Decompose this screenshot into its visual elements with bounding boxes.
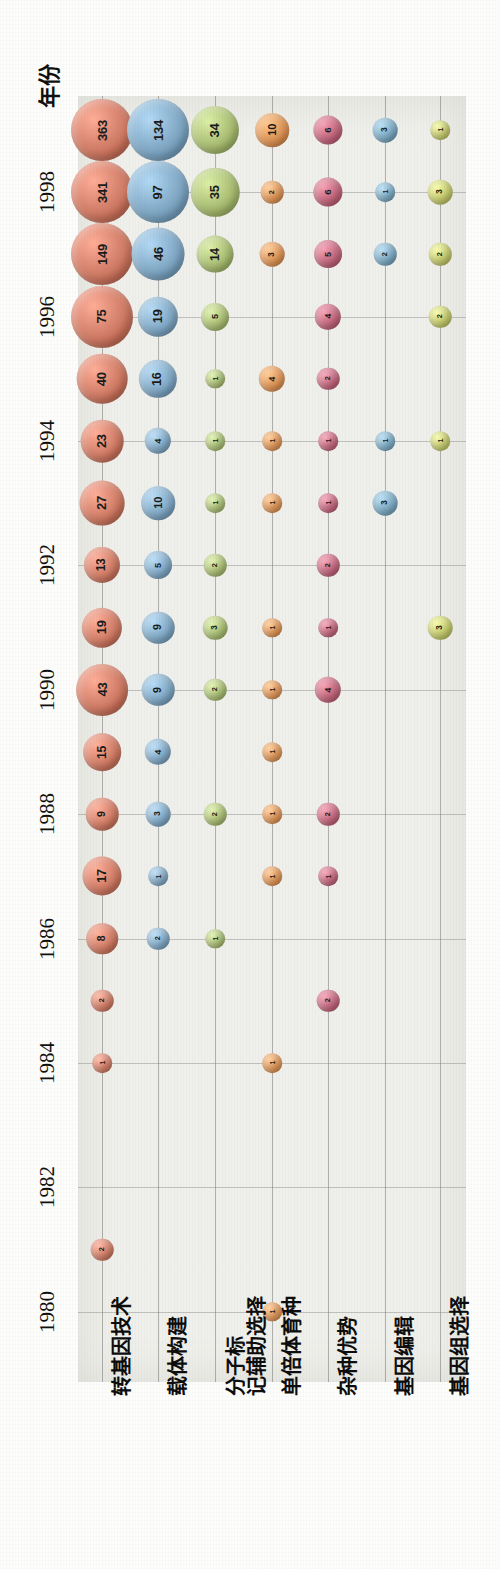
- bubble-载体构建-1989: 4: [145, 739, 171, 765]
- vertical-gridline-7: [440, 96, 441, 1382]
- bubble-value-label: 1: [382, 190, 389, 194]
- bubble-分子标记辅助选择-1988: 2: [204, 803, 227, 826]
- bubble-value-label: 9: [153, 625, 164, 631]
- category-label-基因编辑: 基因编辑: [395, 1316, 416, 1396]
- category-label-杂种优势: 杂种优势: [338, 1316, 359, 1396]
- bubble-基因组选择-1999: 1: [430, 120, 450, 140]
- year-tick-1992: 1992: [35, 544, 60, 586]
- category-label-分子标记辅助选择: 分子标记辅助选择: [226, 1296, 268, 1396]
- bubble-单倍体育种-1990: 1: [262, 680, 282, 700]
- category-label-单倍体育种: 单倍体育种: [282, 1296, 303, 1396]
- bubble-value-label: 4: [154, 750, 163, 755]
- bubble-value-label: 1: [269, 626, 276, 630]
- category-label-line: 转基因技术: [112, 1296, 133, 1396]
- bubble-value-label: 2: [154, 937, 161, 941]
- bubble-载体构建-1998: 97: [127, 161, 189, 223]
- bubble-转基因技术-1981: 2: [91, 1238, 114, 1261]
- bubble-value-label: 5: [153, 563, 162, 568]
- bubble-分子标记辅助选择-1991: 3: [203, 615, 228, 640]
- bubble-分子标记辅助选择-1993: 1: [205, 493, 225, 513]
- vertical-gridline-3: [215, 96, 216, 1382]
- bubble-value-label: 1: [269, 688, 276, 692]
- bubble-value-label: 35: [209, 185, 222, 199]
- bubble-杂种优势-1997: 5: [314, 240, 342, 268]
- bubble-载体构建-1986: 2: [147, 927, 170, 950]
- year-tick-1998: 1998: [35, 171, 60, 213]
- bubble-value-label: 1: [437, 128, 444, 132]
- bubble-单倍体育种-1993: 1: [262, 493, 282, 513]
- bubble-value-label: 1: [212, 377, 219, 381]
- bubble-转基因技术-1984: 1: [92, 1053, 112, 1073]
- bubble-载体构建-1996: 19: [138, 296, 178, 336]
- bubble-分子标记辅助选择-1998: 35: [191, 168, 240, 217]
- bubble-基因组选择-1998: 3: [428, 180, 453, 205]
- bubble-value-label: 1: [325, 501, 332, 505]
- vertical-gridline-4: [272, 96, 273, 1382]
- category-label-line: 载体构建: [168, 1316, 189, 1396]
- bubble-单倍体育种-1988: 1: [262, 804, 282, 824]
- bubble-value-label: 341: [95, 182, 108, 203]
- horizontal-gridline-1992: [78, 565, 466, 566]
- bubble-value-label: 4: [324, 688, 333, 693]
- bubble-value-label: 2: [98, 999, 105, 1003]
- bubble-value-label: 2: [324, 563, 331, 567]
- bubble-value-label: 1: [382, 439, 389, 443]
- bubble-value-label: 97: [152, 185, 165, 199]
- bubble-value-label: 1: [325, 439, 332, 443]
- bubble-基因编辑-1994: 1: [375, 431, 395, 451]
- bubble-载体构建-1987: 1: [148, 867, 168, 887]
- bubble-value-label: 6: [323, 190, 333, 195]
- bubble-value-label: 1: [269, 875, 276, 879]
- bubble-value-label: 19: [151, 310, 164, 324]
- year-tick-1990: 1990: [35, 669, 60, 711]
- bubble-value-label: 6: [323, 127, 333, 132]
- bubble-value-label: 3: [436, 625, 444, 629]
- bubble-value-label: 2: [211, 812, 218, 816]
- bubble-转基因技术-1991: 19: [82, 607, 122, 647]
- category-label-line: 记辅助选择: [247, 1296, 268, 1396]
- year-tick-1986: 1986: [35, 918, 60, 960]
- bubble-value-label: 3: [211, 625, 219, 629]
- bubble-单倍体育种-1995: 4: [259, 366, 285, 392]
- bubble-转基因技术-1995: 40: [77, 353, 128, 404]
- bubble-载体构建-1990: 9: [142, 674, 175, 707]
- vertical-gridline-6: [385, 96, 386, 1382]
- bubble-value-label: 17: [96, 870, 109, 884]
- bubble-分子标记辅助选择-1986: 1: [205, 929, 225, 949]
- bubble-value-label: 1: [212, 937, 219, 941]
- bubble-转基因技术-1990: 43: [76, 664, 128, 716]
- bubble-转基因技术-1989: 15: [83, 733, 121, 771]
- bubble-载体构建-1999: 134: [127, 99, 189, 161]
- bubble-value-label: 2: [211, 688, 218, 692]
- bubble-转基因技术-1987: 17: [83, 857, 122, 896]
- bubble-载体构建-1995: 16: [139, 360, 177, 398]
- bubble-value-label: 1: [269, 1061, 276, 1065]
- bubble-单倍体育种-1984: 1: [262, 1053, 282, 1073]
- bubble-value-label: 1: [269, 750, 276, 754]
- category-label-line: 杂种优势: [338, 1316, 359, 1396]
- bubble-转基因技术-1992: 13: [84, 547, 120, 583]
- bubble-基因编辑-1997: 2: [374, 243, 397, 266]
- bubble-value-label: 2: [324, 999, 331, 1003]
- bubble-转基因技术-1997: 149: [71, 223, 133, 285]
- bubble-value-label: 2: [381, 252, 388, 256]
- bubble-value-label: 19: [95, 621, 108, 635]
- bubble-基因编辑-1993: 3: [373, 491, 398, 516]
- bubble-value-label: 5: [323, 252, 332, 257]
- bubble-基因编辑-1998: 1: [375, 182, 395, 202]
- bubble-转基因技术-1999: 363: [71, 99, 133, 161]
- bubble-基因组选择-1994: 1: [430, 431, 450, 451]
- bubble-value-label: 3: [381, 128, 389, 132]
- bubble-杂种优势-1991: 1: [318, 618, 338, 638]
- bubble-value-label: 1: [212, 439, 219, 443]
- bubble-value-label: 16: [152, 372, 165, 385]
- year-tick-1996: 1996: [35, 296, 60, 338]
- bubble-杂种优势-1992: 2: [317, 554, 340, 577]
- category-label-line: 基因编辑: [395, 1316, 416, 1396]
- bubble-转基因技术-1985: 2: [91, 990, 114, 1013]
- year-tick-1988: 1988: [35, 793, 60, 835]
- bubble-value-label: 9: [153, 687, 164, 693]
- bubble-转基因技术-1988: 9: [86, 798, 119, 831]
- bubble-value-label: 3: [436, 190, 444, 194]
- bubble-chart-plot-area: 3633411497540232713194315917821213497461…: [78, 96, 466, 1382]
